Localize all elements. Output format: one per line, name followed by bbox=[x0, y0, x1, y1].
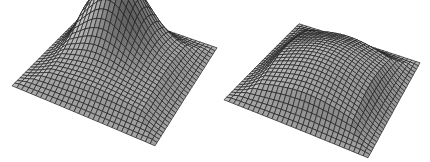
surface-plots bbox=[0, 0, 430, 162]
figure-canvas bbox=[0, 0, 430, 162]
surface-plot-right bbox=[224, 24, 420, 158]
surface-plot-left bbox=[12, 0, 217, 146]
